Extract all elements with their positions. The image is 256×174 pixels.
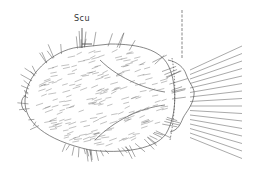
specimen-drawing [0,0,256,174]
scutum-label: Scu [74,14,90,23]
specimen-illustration: Scu [0,0,256,174]
